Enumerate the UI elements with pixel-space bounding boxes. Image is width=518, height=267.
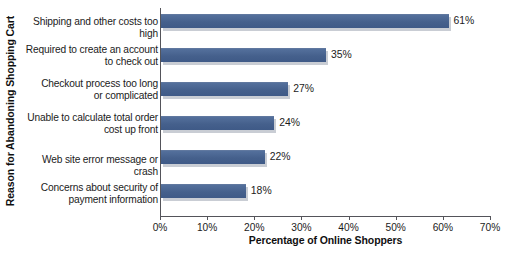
y-axis-title-text: Reason for Abandoning Shopping Cart <box>4 16 16 206</box>
category-label: Unable to calculate total order cost up … <box>22 112 158 137</box>
bar-row: 22% <box>161 150 325 167</box>
category-label-line: Unable to calculate total order <box>22 112 158 124</box>
bar-row: 61% <box>161 14 509 31</box>
bar-row: 18% <box>161 184 306 201</box>
bar-row: 27% <box>161 82 348 99</box>
x-axis-tick-label: 10% <box>197 222 217 233</box>
category-label: Concerns about security of payment infor… <box>22 182 158 207</box>
bar-value-label: 61% <box>449 14 475 28</box>
category-label-line: Checkout process too long <box>22 78 158 90</box>
bar <box>161 48 326 62</box>
x-axis-tick <box>349 216 350 220</box>
x-axis-tick <box>490 216 491 220</box>
bar-row: 24% <box>161 116 334 133</box>
bar-value-label: 18% <box>246 184 272 198</box>
category-label-line: Shipping and other costs too high <box>22 16 158 41</box>
category-label-line: Web site error message or crash <box>22 154 158 179</box>
category-label-line: or complicated <box>22 90 158 102</box>
y-axis-title: Reason for Abandoning Shopping Cart <box>0 0 20 222</box>
plot-area: 61% 35% 27% 24% 22% 18% 0%10%20%30% <box>160 8 491 217</box>
x-axis-tick-label: 0% <box>153 222 168 233</box>
x-axis-tick-label: 20% <box>244 222 264 233</box>
category-label-line: payment information <box>22 194 158 206</box>
category-label-line: Concerns about security of <box>22 182 158 194</box>
category-label: Required to create an account to check o… <box>22 44 158 69</box>
x-axis-tick <box>396 216 397 220</box>
x-axis-tick <box>443 216 444 220</box>
category-label-line: cost up front <box>22 124 158 136</box>
x-axis-line <box>160 216 491 217</box>
x-axis-tick <box>160 216 161 220</box>
category-label-line: Required to create an account <box>22 44 158 56</box>
x-axis-tick-label: 70% <box>480 222 500 233</box>
category-label-list: Shipping and other costs too high Requir… <box>22 8 158 214</box>
bar <box>161 150 265 164</box>
x-axis-tick <box>254 216 255 220</box>
bar <box>161 82 288 96</box>
category-label: Checkout process too long or complicated <box>22 78 158 103</box>
bar-row: 35% <box>161 48 386 65</box>
x-axis-tick-label: 60% <box>433 222 453 233</box>
bar <box>161 116 274 130</box>
x-axis-tick-label: 50% <box>386 222 406 233</box>
x-axis-tick <box>207 216 208 220</box>
bar-value-label: 22% <box>265 150 291 164</box>
x-axis-title: Percentage of Online Shoppers <box>160 234 491 246</box>
bar-value-label: 24% <box>274 116 300 130</box>
category-label-line: to check out <box>22 56 158 68</box>
bar-value-label: 27% <box>288 82 314 96</box>
x-axis-tick-label: 30% <box>291 222 311 233</box>
bar <box>161 184 246 198</box>
x-axis-tick-label: 40% <box>338 222 358 233</box>
x-axis-tick <box>301 216 302 220</box>
bar-chart: Reason for Abandoning Shopping Cart Ship… <box>0 0 518 267</box>
category-label: Shipping and other costs too high <box>22 16 158 41</box>
bar-value-label: 35% <box>326 48 352 62</box>
category-label: Web site error message or crash <box>22 154 158 179</box>
bar <box>161 14 449 28</box>
